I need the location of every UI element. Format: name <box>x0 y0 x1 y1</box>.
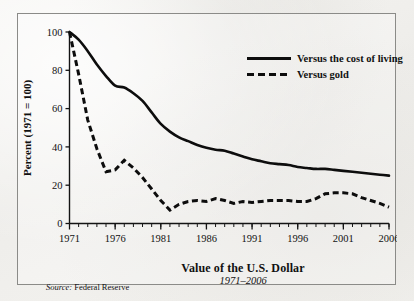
x-tick-label: 1981 <box>150 233 171 244</box>
y-tick-label: 0 <box>57 218 62 229</box>
chart-legend: Versus the cost of living Versus gold <box>246 50 406 82</box>
x-tick-label: 1991 <box>242 233 263 244</box>
x-axis-major-ticks <box>70 224 390 230</box>
legend-label-cost-of-living: Versus the cost of living <box>292 53 403 64</box>
y-axis-title: Percent (1971 = 100) <box>21 80 34 177</box>
y-tick-label: 20 <box>52 180 63 191</box>
y-tick-label: 100 <box>47 27 63 38</box>
y-tick-label: 40 <box>52 142 63 153</box>
source-note: Source: Federal Reserve <box>46 282 129 292</box>
legend-swatch-dashed-line-icon <box>246 67 292 81</box>
legend-item-cost-of-living: Versus the cost of living <box>246 50 406 66</box>
source-label: Source: <box>46 282 72 292</box>
y-axis-tick-labels: 020406080100 <box>47 27 63 230</box>
x-tick-label: 2001 <box>333 233 354 244</box>
x-axis-title: Value of the U.S. Dollar <box>78 261 408 276</box>
source-value: Federal Reserve <box>74 282 129 292</box>
legend-item-gold: Versus gold <box>246 66 406 82</box>
x-tick-label: 1986 <box>196 233 217 244</box>
legend-swatch-solid-line-icon <box>246 51 292 65</box>
x-tick-label: 1976 <box>105 233 126 244</box>
y-tick-label: 60 <box>52 103 63 114</box>
legend-label-gold: Versus gold <box>292 69 349 80</box>
x-tick-label: 1996 <box>287 233 308 244</box>
x-axis-tick-labels: 19711976198119861991199620012006 <box>59 233 397 244</box>
x-tick-label: 2006 <box>379 233 398 244</box>
y-tick-label: 80 <box>52 65 63 76</box>
x-tick-label: 1971 <box>59 233 80 244</box>
chart-frame: 020406080100 197119761981198619911996200… <box>17 13 396 285</box>
